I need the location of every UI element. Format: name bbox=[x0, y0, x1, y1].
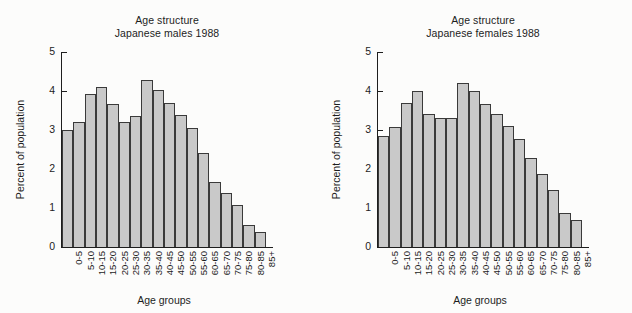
x-tick-labels-females: 0-55-1010-1515-2020-2525-3030-3535-4040-… bbox=[378, 249, 582, 293]
x-tick-label: 0-5 bbox=[389, 249, 400, 293]
bar bbox=[548, 190, 559, 247]
x-tick-label: 30-35 bbox=[141, 249, 152, 293]
y-tick-0: 0 bbox=[378, 247, 383, 248]
bar bbox=[209, 182, 220, 247]
plot-area-males: 012345 bbox=[62, 52, 266, 247]
y-axis-title-females: Percent of population bbox=[330, 0, 343, 52]
x-tick-labels-males: 0-55-1010-1515-2020-2525-3030-3535-4040-… bbox=[62, 249, 266, 293]
x-tick-label: 60-65 bbox=[209, 249, 220, 293]
x-tick-label: 45-50 bbox=[491, 249, 502, 293]
y-tick-0: 0 bbox=[62, 247, 67, 248]
x-tick-label: 55-60 bbox=[198, 249, 209, 293]
x-tick-label: 60-65 bbox=[525, 249, 536, 293]
y-axis-title-text: Percent of population bbox=[330, 52, 342, 247]
x-tick-label: 25-30 bbox=[130, 249, 141, 293]
bar bbox=[119, 122, 130, 247]
x-tick-label: 65-70 bbox=[221, 249, 232, 293]
chart-title-line2: Japanese females 1988 bbox=[334, 27, 632, 40]
chart-panel-males: Age structure Japanese males 1988 Percen… bbox=[0, 0, 316, 313]
bar bbox=[107, 104, 118, 247]
x-tick-label: 30-35 bbox=[457, 249, 468, 293]
x-tick-label: 85+ bbox=[266, 249, 277, 293]
x-tick-label: 70-75 bbox=[232, 249, 243, 293]
bar bbox=[141, 80, 152, 247]
y-tick-label: 2 bbox=[365, 162, 371, 175]
bar bbox=[96, 87, 107, 247]
y-tick-label: 5 bbox=[365, 45, 371, 58]
chart-title-line1: Age structure bbox=[18, 14, 316, 27]
x-tick-label: 0-5 bbox=[73, 249, 84, 293]
bar bbox=[130, 116, 141, 247]
bar bbox=[435, 118, 446, 247]
x-tick-label: 50-55 bbox=[503, 249, 514, 293]
x-tick-label: 35-40 bbox=[153, 249, 164, 293]
x-tick-label: 40-45 bbox=[480, 249, 491, 293]
bar bbox=[221, 193, 232, 247]
bar bbox=[401, 103, 412, 247]
chart-title-line2: Japanese males 1988 bbox=[18, 27, 316, 40]
bar bbox=[491, 114, 502, 247]
bar bbox=[255, 232, 266, 247]
y-tick-label: 1 bbox=[49, 201, 55, 214]
bar bbox=[537, 174, 548, 247]
bar bbox=[559, 213, 570, 247]
bar bbox=[514, 139, 525, 247]
bar bbox=[423, 114, 434, 247]
x-tick-label: 35-40 bbox=[469, 249, 480, 293]
bar bbox=[480, 104, 491, 247]
y-tick-label: 4 bbox=[365, 84, 371, 97]
y-tick-label: 5 bbox=[49, 45, 55, 58]
x-tick-label: 75-80 bbox=[243, 249, 254, 293]
x-tick-label: 20-25 bbox=[435, 249, 446, 293]
bar bbox=[243, 225, 254, 247]
y-tick-label: 4 bbox=[49, 84, 55, 97]
bar bbox=[469, 91, 480, 247]
x-tick-label: 50-55 bbox=[187, 249, 198, 293]
x-axis-title-males: Age groups bbox=[62, 294, 266, 306]
bar bbox=[73, 122, 84, 247]
bar bbox=[153, 90, 164, 247]
x-tick-label: 10-15 bbox=[96, 249, 107, 293]
y-tick-label: 3 bbox=[49, 123, 55, 136]
x-tick-label: 20-25 bbox=[119, 249, 130, 293]
x-tick-label: 15-20 bbox=[107, 249, 118, 293]
x-tick-label: 5-10 bbox=[401, 249, 412, 293]
bar-group-females bbox=[378, 52, 582, 247]
bar bbox=[571, 220, 582, 247]
x-tick-label: 45-50 bbox=[175, 249, 186, 293]
bar bbox=[525, 158, 536, 247]
chart-title-females: Age structure Japanese females 1988 bbox=[316, 14, 632, 40]
bar-group-males bbox=[62, 52, 266, 247]
bar bbox=[389, 127, 400, 247]
x-tick-label: 70-75 bbox=[548, 249, 559, 293]
bar bbox=[187, 128, 198, 247]
bar bbox=[62, 130, 73, 247]
chart-title-males: Age structure Japanese males 1988 bbox=[0, 14, 316, 40]
bar bbox=[378, 136, 389, 247]
plot-area-females: 012345 bbox=[378, 52, 582, 247]
bar bbox=[175, 115, 186, 247]
bar bbox=[457, 83, 468, 247]
x-tick-label: 5-10 bbox=[85, 249, 96, 293]
y-axis-title-text: Percent of population bbox=[14, 52, 26, 247]
figure-page: Age structure Japanese males 1988 Percen… bbox=[0, 0, 632, 313]
x-tick-label: 85+ bbox=[582, 249, 593, 293]
x-tick-label: 25-30 bbox=[446, 249, 457, 293]
y-tick-label: 3 bbox=[365, 123, 371, 136]
x-tick-label: 10-15 bbox=[412, 249, 423, 293]
y-tick-label: 2 bbox=[49, 162, 55, 175]
chart-title-line1: Age structure bbox=[334, 14, 632, 27]
x-tick-label: 15-20 bbox=[423, 249, 434, 293]
x-axis-title-females: Age groups bbox=[378, 294, 582, 306]
bar bbox=[412, 91, 423, 247]
x-tick-label: 65-70 bbox=[537, 249, 548, 293]
x-tick-label: 80-85 bbox=[571, 249, 582, 293]
y-axis-title-males: Percent of population bbox=[14, 0, 27, 52]
y-tick-label: 1 bbox=[365, 201, 371, 214]
x-tick-label: 40-45 bbox=[164, 249, 175, 293]
y-tick-label: 0 bbox=[49, 240, 55, 253]
bar bbox=[503, 126, 514, 247]
x-tick-label: 55-60 bbox=[514, 249, 525, 293]
x-tick-label: 75-80 bbox=[559, 249, 570, 293]
bar bbox=[232, 205, 243, 247]
